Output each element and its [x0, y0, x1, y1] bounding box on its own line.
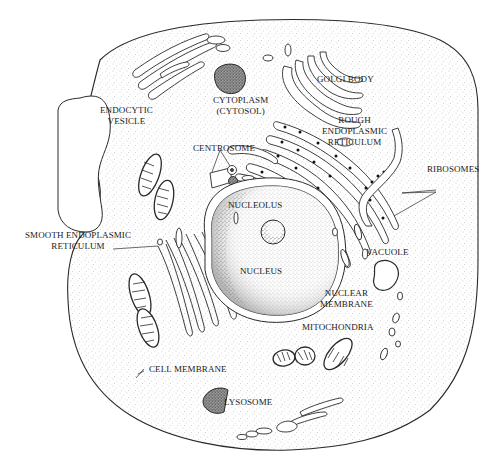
cytoplasm-granule: [215, 64, 246, 94]
label-cytoplasm: CYTOPLASM (CYTOSOL): [213, 95, 268, 117]
label-nuclear-membrane-line1: NUCLEAR: [320, 288, 373, 299]
label-endocytic-line1: ENDOCYTIC: [100, 105, 153, 116]
label-endocytic-vesicle: ENDOCYTIC VESICLE: [100, 105, 153, 127]
label-cytoplasm-line1: CYTOPLASM: [213, 95, 268, 106]
label-nucleus: NUCLEUS: [240, 266, 282, 277]
label-cytoplasm-line2: (CYTOSOL): [213, 106, 268, 117]
label-golgi-body: GOLGI BODY: [317, 74, 374, 85]
label-cell-membrane: CELL MEMBRANE: [149, 364, 227, 375]
label-rough-er-line2: ENDOPLASMIC: [322, 126, 387, 137]
label-rough-er: ROUGH ENDOPLASMIC RETICULUM: [322, 115, 387, 148]
label-lysosome: LYSOSOME: [224, 397, 272, 408]
label-mitochondria: MITOCHONDRIA: [302, 322, 374, 333]
label-ribosomes: RIBOSOMES: [427, 164, 479, 175]
label-nucleolus: NUCLEOLUS: [228, 200, 282, 211]
label-nuclear-membrane-line2: MEMBRANE: [320, 299, 373, 310]
label-nuclear-membrane: NUCLEAR MEMBRANE: [320, 288, 373, 310]
label-smooth-er: SMOOTH ENDOPLASMIC RETICULUM: [25, 230, 131, 252]
label-rough-er-line3: RETICULUM: [322, 137, 387, 148]
label-rough-er-line1: ROUGH: [322, 115, 387, 126]
mitochondrion: [295, 347, 315, 365]
nucleolus: [261, 220, 285, 244]
label-endocytic-line2: VESICLE: [100, 116, 153, 127]
label-vacuole: VACUOLE: [366, 247, 409, 258]
label-smooth-er-line2: RETICULUM: [25, 241, 131, 252]
label-centrosome: CENTROSOME: [193, 143, 255, 154]
label-smooth-er-line1: SMOOTH ENDOPLASMIC: [25, 230, 131, 241]
